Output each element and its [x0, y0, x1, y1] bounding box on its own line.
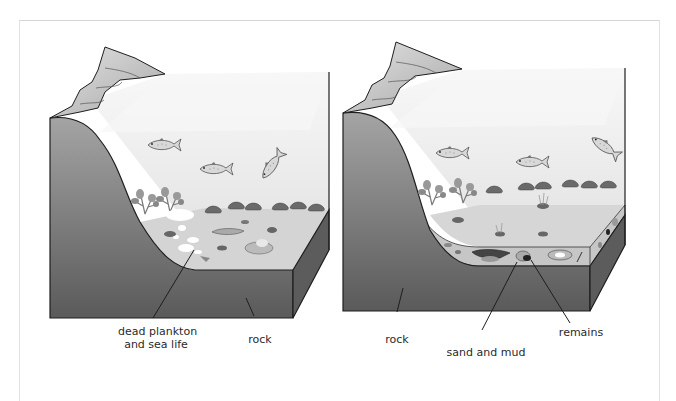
label-sand-and-mud: sand and mud — [446, 346, 526, 359]
label-rock-right: rock — [383, 333, 411, 346]
label-line: and sea life — [118, 338, 194, 351]
seaweed-icon — [418, 180, 446, 205]
label-remains: remains — [556, 326, 606, 339]
left-panel — [50, 47, 329, 318]
label-dead-plankton: dead plankton and sea life — [118, 325, 194, 351]
seaweed-icon — [131, 189, 159, 214]
label-rock-left: rock — [246, 333, 274, 346]
label-line: dead plankton — [118, 325, 194, 338]
right-panel — [343, 42, 625, 330]
